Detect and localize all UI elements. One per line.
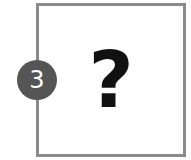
question-mark: ?: [36, 3, 186, 157]
step-number-badge: 3: [17, 60, 57, 100]
